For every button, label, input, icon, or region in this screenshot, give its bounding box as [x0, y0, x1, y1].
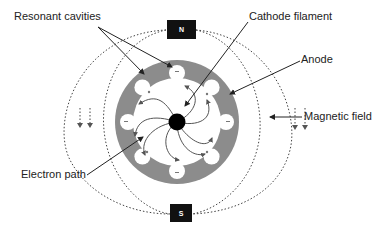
south-pole: S — [170, 204, 192, 222]
north-pole: N — [167, 20, 196, 39]
north-pole-label: N — [179, 26, 184, 33]
label-anode: Anode — [301, 54, 333, 65]
label-electron-path: Electron path — [21, 169, 86, 180]
cathode-filament — [169, 114, 186, 131]
label-resonant-cavities: Resonant cavities — [14, 11, 101, 22]
south-pole-label: S — [179, 210, 184, 217]
label-magnetic-field: Magnetic field — [304, 111, 372, 122]
label-cathode-filament: Cathode filament — [249, 11, 332, 22]
